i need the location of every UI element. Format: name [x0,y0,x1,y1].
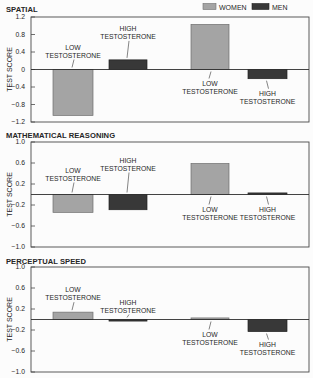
y-tick-label: −0.4 [12,83,26,90]
bar-label-line: TESTOSTERONE [45,294,101,301]
bar-label: LOWTESTOSTERONE [182,206,238,221]
bar-label-line: TESTOSTERONE [240,98,296,105]
y-tick-label: 0.4 [16,48,26,55]
panel-mathematical-reasoning: TEST SCORE1.00.60.2−0.2−0.6−1.0LOWTESTOS… [6,138,309,250]
bar-label-line: LOW [202,206,218,213]
bar-label: LOWTESTOSTERONE [182,331,238,346]
bar-label-line: TESTOSTERONE [182,214,238,221]
legend-label-men: MEN [272,4,288,11]
bar-label: HIGHTESTOSTERONE [240,90,296,105]
bar-label-line: HIGH [120,25,137,32]
label-leader-line [267,81,269,89]
y-tick-label: −1.2 [12,118,26,125]
label-leader-line [267,334,269,340]
bar-label: HIGHTESTOSTERONE [100,299,156,314]
bar-label-line: TESTOSTERONE [100,307,156,314]
label-leader-line [127,41,129,58]
bar-label-line: TESTOSTERONE [100,33,156,40]
bar-women-low-testosterone [53,312,93,319]
y-axis-label: TEST SCORE [6,172,13,217]
label-leader-line [209,72,211,79]
bar-label-line: HIGH [120,299,137,306]
bar-women-low-testosterone [191,24,229,69]
bar-men-high-testosterone [109,195,147,210]
bar-label-line: TESTOSTERONE [240,349,296,356]
bar-men-high-testosterone [109,60,147,70]
bar-label: LOWTESTOSTERONE [45,167,101,182]
bar-label-line: TESTOSTERONE [182,88,238,95]
bar-label: LOWTESTOSTERONE [182,80,238,95]
label-leader-line [72,183,74,193]
figure: WOMEN MEN SPATIAL MATHEMATICAL REASONING… [0,0,313,378]
y-tick-label: 0.2 [16,180,26,187]
bar-men-high-testosterone [248,70,287,79]
panel-perceptual-speed: TEST SCORE1.00.60.2−0.2−0.6−1.0LOWTESTOS… [6,263,309,375]
bar-label-line: HIGH [259,206,276,213]
y-tick-label: −0.2 [12,326,26,333]
bar-label-line: LOW [65,167,81,174]
label-leader-line [127,173,129,193]
panels: TEST SCORE1.20.80.40−0.4−0.8−1.2LOWTESTO… [6,13,309,375]
bar-label: LOWTESTOSTERONE [45,44,101,59]
y-tick-label: 1.0 [16,138,26,145]
bar-label-line: TESTOSTERONE [100,165,156,172]
y-tick-label: 1.2 [16,13,26,20]
bar-label: LOWTESTOSTERONE [45,286,101,301]
bar-label-line: LOW [65,44,81,51]
y-tick-label: 0.8 [16,31,26,38]
y-tick-label: −1.0 [12,368,26,375]
legend-swatch-men [252,4,269,10]
bar-label-line: TESTOSTERONE [182,339,238,346]
label-leader-line [72,302,74,310]
bar-label-line: LOW [202,80,218,87]
bar-men-high-testosterone [248,320,287,332]
bar-label: HIGHTESTOSTERONE [240,206,296,221]
bar-women-low-testosterone [53,70,93,116]
label-leader-line [127,315,129,318]
y-tick-label: 0 [21,66,25,73]
y-axis-label: TEST SCORE [6,297,13,342]
y-tick-label: 0.2 [16,305,26,312]
y-tick-label: −0.8 [12,101,26,108]
legend-label-women: WOMEN [219,4,247,11]
y-tick-label: −1.0 [12,243,26,250]
bar-label-line: HIGH [120,157,137,164]
bar-label-line: TESTOSTERONE [240,214,296,221]
bar-label-line: TESTOSTERONE [45,175,101,182]
label-leader-line [209,197,211,205]
legend: WOMEN MEN [203,4,288,11]
bar-label-line: TESTOSTERONE [45,52,101,59]
label-leader-line [267,197,269,205]
bar-label-line: HIGH [259,341,276,348]
legend-swatch-women [203,4,216,10]
bar-women-low-testosterone [53,195,93,213]
bar-label-line: LOW [202,331,218,338]
y-tick-label: 0.6 [16,284,26,291]
bar-label-line: LOW [65,286,81,293]
y-tick-label: −0.6 [12,222,26,229]
label-leader-line [209,322,211,330]
bar-women-low-testosterone [191,164,229,195]
chart-canvas: WOMEN MEN SPATIAL MATHEMATICAL REASONING… [0,0,313,378]
bar-label-line: HIGH [259,90,276,97]
bar-label: HIGHTESTOSTERONE [240,341,296,356]
y-tick-label: 0.6 [16,159,26,166]
label-leader-line [72,60,74,68]
panel-spatial: TEST SCORE1.20.80.40−0.4−0.8−1.2LOWTESTO… [6,13,309,125]
y-tick-label: 1.0 [16,263,26,270]
bar-label: HIGHTESTOSTERONE [100,25,156,40]
bar-label: HIGHTESTOSTERONE [100,157,156,172]
y-tick-label: −0.2 [12,201,26,208]
y-tick-label: −0.6 [12,347,26,354]
